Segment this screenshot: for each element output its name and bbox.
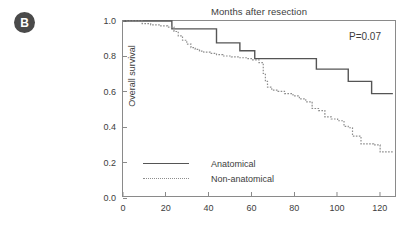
- chart-panel: B Months after resection Overall surviva…: [0, 0, 412, 225]
- x-tick-label: 120: [372, 196, 387, 213]
- x-tick-label: 0: [120, 196, 125, 213]
- legend-item: Non-anatomical: [143, 171, 274, 186]
- panel-label-badge: B: [14, 12, 35, 33]
- y-tick-label: 0.2: [103, 158, 123, 168]
- p-value-annotation: P=0.07: [349, 31, 381, 42]
- legend-line-icon: [143, 163, 189, 164]
- legend-item: Anatomical: [143, 156, 274, 171]
- y-tick-label: 0.4: [103, 122, 123, 132]
- x-tick-label: 60: [246, 196, 256, 213]
- y-tick-label: 0.6: [103, 87, 123, 97]
- legend-label: Anatomical: [211, 159, 256, 169]
- y-tick-label: 1.0: [103, 16, 123, 26]
- x-tick-label: 80: [289, 196, 299, 213]
- x-tick-label: 40: [204, 196, 214, 213]
- y-tick-label: 0.8: [103, 51, 123, 61]
- legend-label: Non-anatomical: [211, 174, 274, 184]
- plot-area: Overall survival 0.00.20.40.60.81.0 0204…: [122, 20, 396, 197]
- x-tick-label: 20: [161, 196, 171, 213]
- legend-line-icon: [143, 178, 189, 179]
- chart-title: Months after resection: [122, 6, 396, 17]
- chart-legend: AnatomicalNon-anatomical: [143, 156, 274, 186]
- x-tick-label: 100: [330, 196, 345, 213]
